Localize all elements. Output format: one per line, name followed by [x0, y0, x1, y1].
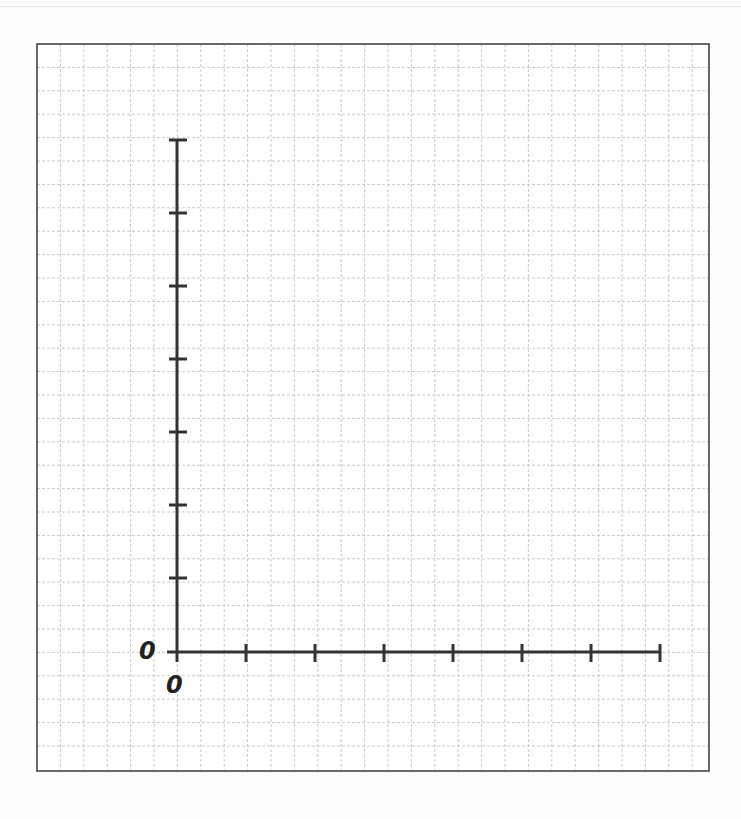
chart-canvas: [0, 0, 741, 819]
x-axis-origin-label: 0: [166, 673, 183, 697]
y-axis-origin-label: 0: [139, 639, 156, 663]
graph-paper-background: [37, 44, 709, 771]
